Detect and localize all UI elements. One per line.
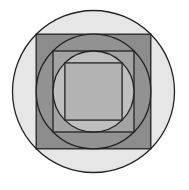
shapes-layer: [13, 11, 175, 173]
inner-square: [65, 63, 122, 120]
nested-shapes-diagram: [0, 0, 189, 190]
